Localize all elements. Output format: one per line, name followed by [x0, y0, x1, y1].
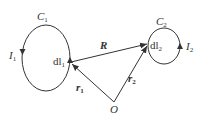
diagram-graphics	[0, 0, 200, 124]
vector-R	[71, 44, 147, 62]
label-r1: r1	[76, 82, 84, 95]
label-origin: O	[110, 104, 118, 115]
label-dl1: dl1	[53, 56, 65, 69]
label-i1: I1	[9, 50, 16, 63]
label-c2: C2	[156, 16, 167, 29]
label-R: R	[100, 40, 107, 51]
label-c1: C1	[37, 11, 48, 24]
diagram-canvas: C1 I1 dl1 C2 I2 dl2 R r1 r2 O	[0, 0, 200, 124]
label-i2: I2	[186, 41, 193, 54]
label-dl2: dl2	[150, 40, 162, 53]
current-i2-arrow-icon	[177, 43, 183, 49]
current-i1-arrow-icon	[20, 49, 26, 55]
label-r2: r2	[128, 73, 136, 86]
